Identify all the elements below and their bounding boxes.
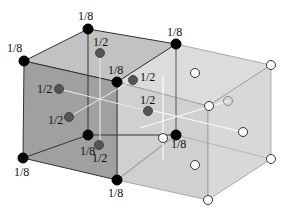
open-atom [159, 134, 168, 143]
corner-atom [171, 39, 181, 49]
face-atom [129, 76, 138, 85]
open-atom [191, 161, 200, 170]
atom-fraction-label: 1/8 [14, 165, 29, 179]
corner-atom [112, 77, 122, 87]
corner-atom [18, 153, 28, 163]
atom-fraction-label: 1/8 [108, 186, 123, 200]
corner-atom [83, 24, 93, 34]
face-atom [55, 85, 64, 94]
unit-cell-diagram: 1/21/21/21/21/21/2 1/81/81/81/81/81/81/8… [0, 0, 289, 216]
atom-fraction-label: 1/2 [48, 113, 63, 127]
face-atom [95, 141, 104, 150]
corner-atom [83, 130, 93, 140]
face-atom [96, 49, 105, 58]
open-atom [267, 155, 276, 164]
atom-fraction-label: 1/8 [167, 25, 182, 39]
atom-fraction-label: 1/2 [140, 70, 155, 84]
atom-fraction-label: 1/8 [108, 63, 123, 77]
open-atom [191, 69, 200, 78]
open-atom [267, 61, 276, 70]
atom-fraction-label: 1/8 [80, 144, 95, 158]
atom-fraction-label: 1/8 [7, 41, 22, 55]
corner-atom [112, 175, 122, 185]
open-atom [239, 128, 248, 137]
atom-fraction-label: 1/8 [78, 9, 93, 23]
corner-atom [19, 56, 29, 66]
atom-fraction-label: 1/2 [37, 82, 52, 96]
atom-fraction-label: 1/2 [93, 35, 108, 49]
atom-fraction-label: 1/8 [171, 137, 186, 151]
open-atom [204, 196, 213, 205]
open-atom [205, 102, 214, 111]
atom-fraction-label: 1/2 [140, 93, 155, 107]
face-atom [144, 107, 153, 116]
face-atom [65, 113, 74, 122]
